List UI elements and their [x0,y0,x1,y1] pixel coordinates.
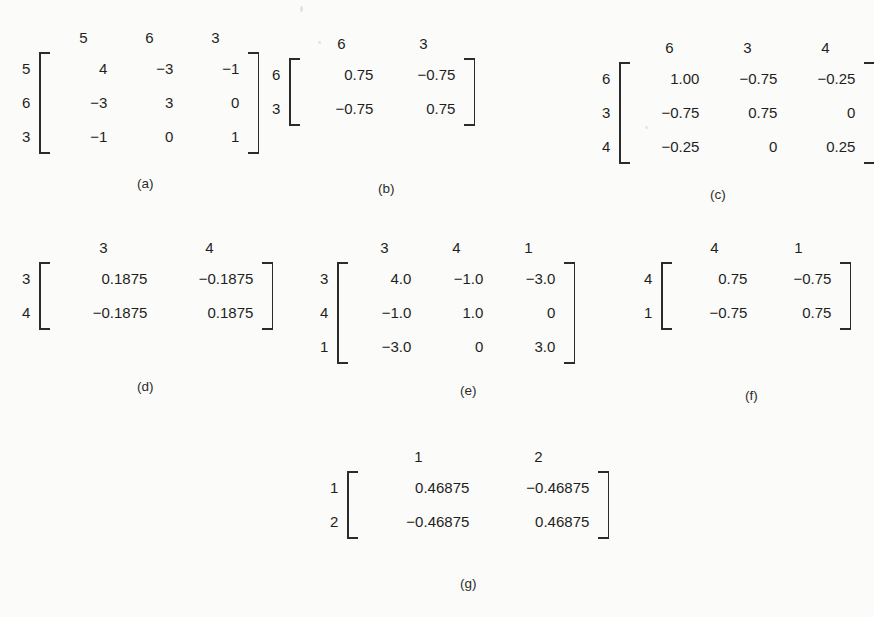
right-bracket-icon [864,62,874,164]
row-label: 4 [320,296,337,330]
matrix-caption-c: (c) [710,187,726,202]
matrix-row: −330 [50,86,248,120]
matrix-c: 6341.00−0.75−0.25−0.750.750−0.2500.25634 [602,40,874,164]
matrix-cell: 0 [786,96,864,130]
matrix-cell: 0 [492,296,564,330]
row-label-column: 34 [22,240,39,330]
bracket-arm-bottom [248,152,259,154]
matrix-bracket-wrap: 0.75−0.75−0.750.75 [289,58,475,126]
matrix-row: 1.00−0.75−0.25 [630,62,864,96]
matrix-f: 410.75−0.75−0.750.7541 [644,240,851,330]
bracket-arm-top [337,262,348,264]
matrix-cell: 1 [182,120,248,154]
matrix-body: 1.00−0.75−0.25−0.750.750−0.2500.25 [630,62,864,164]
column-header-row: 63 [300,36,464,58]
bracket-arm-top [262,262,273,264]
matrix-row: −0.750.750 [630,96,864,130]
bracket-arm-bottom [289,124,300,126]
matrix-body: 0.75−0.75−0.750.75 [672,262,840,330]
column-header: 2 [478,449,598,471]
bracket-arm-top [564,262,575,264]
row-label-spacer [602,40,619,62]
matrix-cell: 4.0 [348,262,420,296]
matrix-bracket-wrap: 4.0−1.0−3.0−1.01.00−3.003.0 [337,262,575,364]
matrix-cell: 1.00 [630,62,708,96]
bracket-arm-bottom [619,162,630,164]
matrix-row: 0.46875−0.46875 [358,471,598,505]
matrix-cell: −0.46875 [358,505,478,539]
matrix-cell: −3.0 [348,330,420,364]
matrix-cell: −0.1875 [156,262,262,296]
matrix-row: 4−3−1 [50,52,248,86]
row-label: 1 [330,471,347,505]
column-header: 6 [300,36,382,58]
row-label-column: 563 [22,30,39,154]
bracket-arm-top [619,62,630,64]
matrix-row: −0.750.75 [672,296,840,330]
matrix-caption-f: (f) [745,388,758,403]
column-header: 1 [492,240,564,262]
row-label: 2 [330,505,347,539]
matrix-cell: 0.46875 [358,471,478,505]
matrix-cell: −0.1875 [50,296,156,330]
matrix-cell: 1.0 [420,296,492,330]
matrix-d: 340.1875−0.1875−0.18750.187534 [22,240,273,330]
row-label: 5 [22,52,39,86]
row-label: 3 [272,92,289,126]
right-bracket-icon [598,471,609,539]
matrix-cell: 0 [182,86,248,120]
bracket-arm-top [464,58,475,60]
matrix-row: −3.003.0 [348,330,564,364]
row-label: 3 [320,262,337,296]
matrix-body: 4−3−1−330−101 [50,52,248,154]
bracket-arm-top [39,52,50,54]
matrix-bracket-wrap: 0.75−0.75−0.750.75 [661,262,851,330]
matrix-row: 0.75−0.75 [672,262,840,296]
matrix-cell: −1.0 [348,296,420,330]
column-header: 6 [116,30,182,52]
matrix-row: −0.750.75 [300,92,464,126]
right-bracket-icon [564,262,575,364]
matrix-b: 630.75−0.75−0.750.7563 [272,36,475,126]
matrix-cell: 0.75 [382,92,464,126]
row-label: 3 [602,96,619,130]
row-label: 4 [644,262,661,296]
matrix-cell: 0.25 [786,130,864,164]
matrix-caption-b: (b) [378,181,395,196]
matrix-cell: 4 [50,52,116,86]
bracket-arm-top [840,262,851,264]
bracket-arm-top [347,471,358,473]
matrix-cell: 0.75 [300,58,382,92]
row-label-column: 341 [320,240,337,364]
matrix-body: 0.1875−0.1875−0.18750.1875 [50,262,262,330]
matrix-row: −1.01.00 [348,296,564,330]
matrix-e: 3414.0−1.0−3.0−1.01.00−3.003.0341 [320,240,575,364]
column-header: 1 [756,240,840,262]
matrix-row: 0.1875−0.1875 [50,262,262,296]
matrix-cell: −0.75 [672,296,756,330]
matrix-bracket-wrap: 1.00−0.75−0.25−0.750.750−0.2500.25 [619,62,874,164]
matrix-cell: 0.1875 [156,296,262,330]
bracket-arm-top [661,262,672,264]
matrix-cell: 0.75 [672,262,756,296]
column-header: 4 [786,40,864,62]
bracket-arm-bottom [347,537,358,539]
column-header: 3 [182,30,248,52]
matrix-caption-d: (d) [137,379,154,394]
column-header: 4 [156,240,262,262]
matrix-row: 0.75−0.75 [300,58,464,92]
row-label: 1 [320,330,337,364]
bracket-arm-top [39,262,50,264]
column-header: 3 [382,36,464,58]
bracket-arm-top [248,52,259,54]
row-label: 3 [22,262,39,296]
scan-speck [300,6,303,12]
matrix-cell: 0 [708,130,786,164]
row-label: 4 [602,130,619,164]
matrix-cell: −0.25 [630,130,708,164]
matrix-cell: −0.75 [382,58,464,92]
matrix-row: −101 [50,120,248,154]
bracket-arm-top [289,58,300,60]
column-header: 3 [348,240,420,262]
matrix-cell: −3 [50,86,116,120]
